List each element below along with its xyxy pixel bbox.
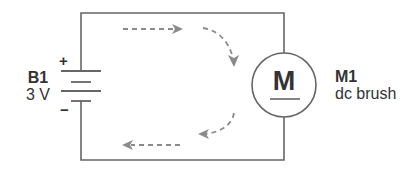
arrow-heads — [122, 24, 239, 150]
wires — [81, 13, 284, 160]
arrow-curve-down — [203, 28, 233, 58]
motor-label: M1 dc brush — [335, 68, 396, 102]
current-flow-arrows — [123, 28, 234, 145]
arrowhead-down-icon — [228, 55, 239, 67]
arrowhead-right-icon — [172, 24, 183, 34]
battery-positive-sign: + — [59, 52, 68, 69]
battery-voltage: 3 V — [20, 86, 56, 103]
battery-name: B1 — [20, 69, 56, 86]
motor-symbol-letter: M — [268, 66, 300, 96]
battery-negative-sign: − — [60, 101, 69, 118]
motor-name: M1 — [335, 68, 396, 85]
wire-bottom — [81, 101, 284, 160]
battery-label: B1 3 V — [20, 69, 56, 103]
arrow-curve-left — [206, 113, 234, 134]
wire-top — [81, 13, 284, 71]
motor-type: dc brush — [335, 85, 396, 102]
battery-symbol — [61, 71, 101, 101]
